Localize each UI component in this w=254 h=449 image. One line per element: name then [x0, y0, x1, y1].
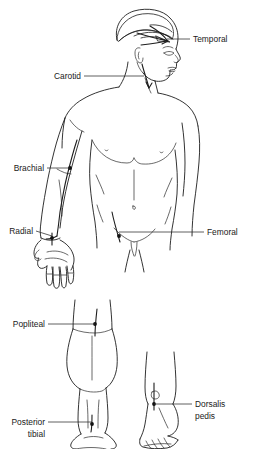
label-posterior-tibial-line1: Posterior — [11, 417, 45, 427]
label-radial: Radial — [9, 226, 33, 236]
label-carotid: Carotid — [54, 71, 81, 81]
head-group — [116, 9, 180, 81]
radial-pulse-dot — [50, 236, 54, 240]
torso-group — [62, 87, 200, 250]
dorsalis-pedis-vessel — [152, 383, 156, 410]
posterior-tibial-vessel — [90, 415, 94, 432]
anatomy-illustration: Temporal Carotid Brachial Radial Femoral… — [0, 0, 254, 449]
temporal-vessel — [137, 26, 168, 45]
upper-body-panel — [34, 9, 200, 288]
label-temporal: Temporal — [193, 34, 228, 44]
label-posterior-tibial-line2: tibial — [28, 429, 45, 439]
posterior-tibial-pulse-dot — [90, 422, 94, 426]
popliteal-vessel — [93, 309, 97, 336]
pulse-points-figure: Temporal Carotid Brachial Radial Femoral… — [0, 0, 254, 449]
femoral-pulse-dot — [117, 234, 121, 238]
left-hand-group — [34, 240, 74, 288]
label-dorsalis-pedis-line2: pedis — [195, 411, 215, 421]
label-brachial: Brachial — [14, 163, 44, 173]
lower-leg-panel — [67, 300, 117, 449]
leader-radial — [36, 231, 52, 236]
leader-lines — [36, 39, 204, 422]
label-femoral: Femoral — [207, 227, 238, 237]
foot-panel — [140, 352, 179, 449]
label-dorsalis-pedis-line1: Dorsalis — [195, 399, 225, 409]
label-popliteal: Popliteal — [13, 319, 45, 329]
